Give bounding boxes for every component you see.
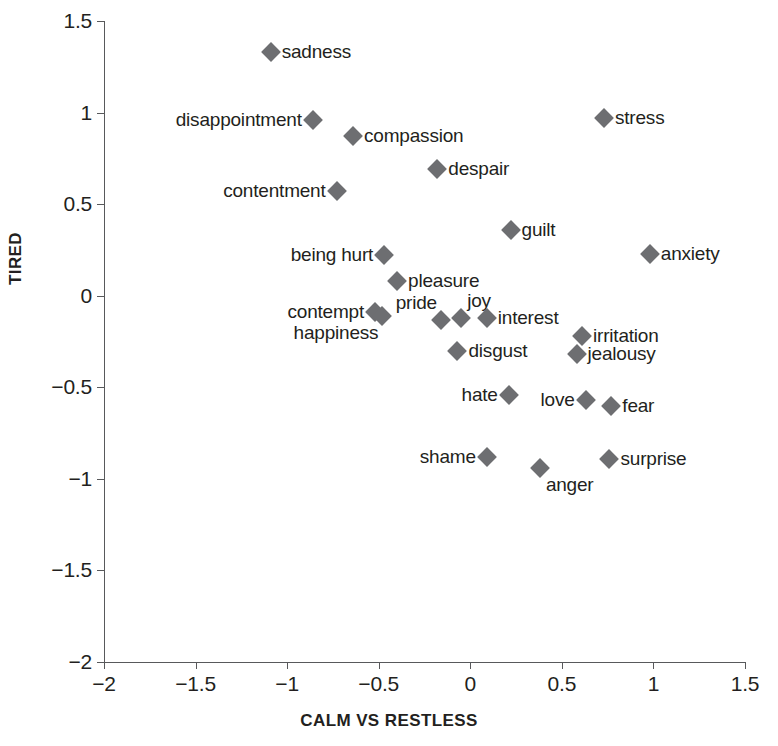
diamond-marker-icon <box>601 396 621 416</box>
data-point-label: shame <box>420 447 476 466</box>
x-tick <box>104 662 105 669</box>
x-tick-label: −1 <box>275 672 299 696</box>
data-point-label: irritation <box>593 326 659 345</box>
x-tick <box>562 662 563 669</box>
diamond-marker-icon <box>594 108 614 128</box>
data-point-label: contempt <box>287 302 364 321</box>
y-tick <box>97 387 104 388</box>
diamond-marker-icon <box>303 110 323 130</box>
data-point-label: hate <box>462 385 498 404</box>
data-point-label: pleasure <box>408 271 479 290</box>
y-tick-label: 0.5 <box>63 192 92 216</box>
chart-page: 1.510.50−0.5−1−1.5−2 −2−1.5−1−0.500.511.… <box>0 0 778 746</box>
diamond-marker-icon <box>477 447 497 467</box>
y-tick-label: −2 <box>68 650 92 674</box>
y-tick-label: 1.5 <box>63 9 92 33</box>
diamond-marker-icon <box>576 390 596 410</box>
diamond-marker-icon <box>261 42 281 62</box>
x-tick <box>653 662 654 669</box>
x-tick-label: 0 <box>465 672 476 696</box>
diamond-marker-icon <box>343 126 363 146</box>
diamond-marker-icon <box>567 344 587 364</box>
data-point-label: anger <box>546 475 594 494</box>
diamond-marker-icon <box>451 308 471 328</box>
data-point-label: joy <box>467 291 491 310</box>
x-tick <box>470 662 471 669</box>
data-point-label: compassion <box>364 126 463 145</box>
diamond-marker-icon <box>327 181 347 201</box>
data-point-label: being hurt <box>291 246 374 265</box>
x-tick <box>287 662 288 669</box>
x-tick-label: −0.5 <box>358 672 399 696</box>
data-point-label: stress <box>615 108 664 127</box>
x-tick <box>379 662 380 669</box>
y-tick-label: −1 <box>68 467 92 491</box>
x-tick-label: −1.5 <box>175 672 216 696</box>
y-tick-label: −1.5 <box>51 558 92 582</box>
y-tick <box>97 479 104 480</box>
x-tick <box>745 662 746 669</box>
y-tick <box>97 662 104 663</box>
data-point-label: disappointment <box>176 110 302 129</box>
diamond-marker-icon <box>499 385 519 405</box>
diamond-marker-icon <box>501 220 521 240</box>
y-tick <box>97 113 104 114</box>
y-tick <box>97 204 104 205</box>
data-point-label: disgust <box>468 341 527 360</box>
x-axis-title: CALM VS RESTLESS <box>0 711 778 731</box>
data-point-label: surprise <box>620 449 686 468</box>
x-tick-label: −2 <box>92 672 116 696</box>
y-tick-label: 0 <box>81 284 92 308</box>
data-point-label: contentment <box>223 181 325 200</box>
diamond-marker-icon <box>600 449 620 469</box>
data-point-label: fear <box>622 396 654 415</box>
y-tick <box>97 296 104 297</box>
diamond-marker-icon <box>477 308 497 328</box>
x-axis-line <box>104 662 745 663</box>
diamond-marker-icon <box>374 246 394 266</box>
data-point-label: happiness <box>294 323 379 342</box>
y-tick-label: 1 <box>81 101 92 125</box>
data-point-label: interest <box>498 308 559 327</box>
data-point-label: anxiety <box>661 244 720 263</box>
diamond-marker-icon <box>448 341 468 361</box>
y-tick <box>97 21 104 22</box>
caption-partial-line <box>0 735 778 746</box>
x-tick <box>196 662 197 669</box>
data-point-label: love <box>541 390 575 409</box>
x-tick-label: 1 <box>648 672 659 696</box>
data-point-label: sadness <box>282 42 351 61</box>
data-point-label: guilt <box>522 220 556 239</box>
diamond-marker-icon <box>387 271 407 291</box>
data-point-label: pride <box>396 293 437 312</box>
y-axis-title: TIRED <box>6 232 26 285</box>
diamond-marker-icon <box>431 310 451 330</box>
data-point-label: despair <box>448 159 509 178</box>
diamond-marker-icon <box>640 244 660 264</box>
y-tick <box>97 570 104 571</box>
x-tick-label: 0.5 <box>548 672 577 696</box>
y-axis-line <box>104 21 105 662</box>
scatter-plot-area: 1.510.50−0.5−1−1.5−2 −2−1.5−1−0.500.511.… <box>104 21 745 662</box>
data-point-label: jealousy <box>588 344 656 363</box>
y-tick-label: −0.5 <box>51 375 92 399</box>
x-tick-label: 1.5 <box>731 672 760 696</box>
diamond-marker-icon <box>427 159 447 179</box>
